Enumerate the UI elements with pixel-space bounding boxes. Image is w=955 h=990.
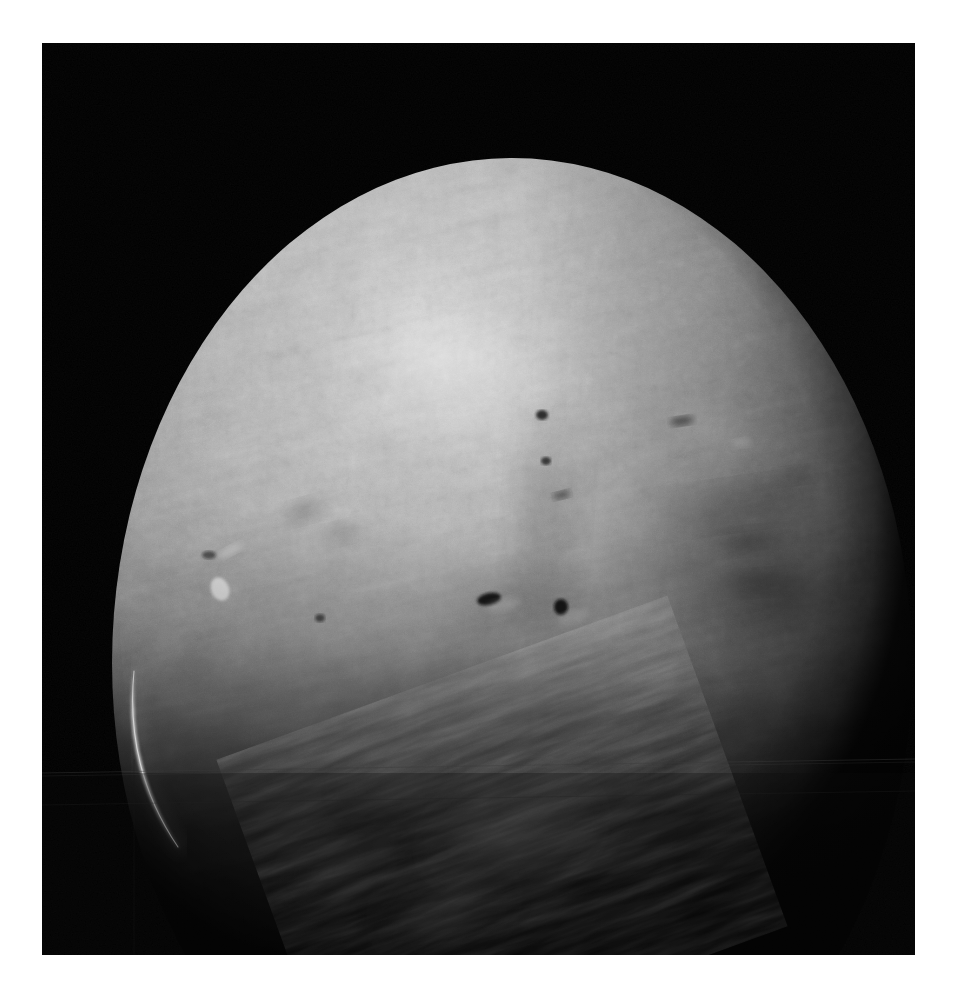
- photographic-grain-overlay: [42, 43, 915, 955]
- image-page: [0, 0, 955, 990]
- planetary-image-canvas: [42, 43, 915, 955]
- photograph-frame: [42, 43, 915, 955]
